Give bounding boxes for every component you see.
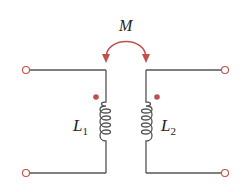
terminal-top-right [222,67,229,74]
terminal-bottom-left [23,170,30,177]
terminal-top-left [23,67,30,74]
arrowhead-right-icon [142,54,150,63]
mutual-label: M [118,17,134,34]
inductor-l2 [142,70,153,173]
coupled-inductor-circuit: M L1 L2 [0,0,246,192]
inductor-l1 [100,70,111,173]
l1-label: L1 [72,116,88,137]
l2-label: L2 [160,116,176,137]
polarity-dot-right [154,94,160,100]
polarity-dot-left [93,94,99,100]
mutual-coupling-arc [106,42,146,59]
arrowhead-left-icon [102,54,110,63]
terminal-bottom-right [222,170,229,177]
